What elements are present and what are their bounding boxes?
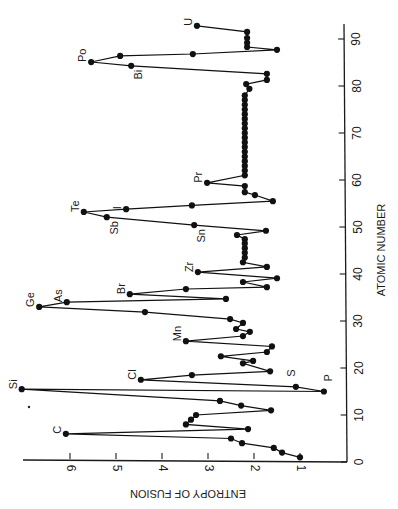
element-label-s: S <box>285 369 297 376</box>
entropy-tick-label: 4 <box>156 465 170 472</box>
element-label-as: As <box>52 289 64 302</box>
data-point <box>223 296 229 302</box>
axes: 123456 0102030405060708090 ENTROPY OF FU… <box>23 24 387 500</box>
atomic-number-tick-label: 40 <box>351 267 365 281</box>
element-label-bi: Bi <box>132 70 144 80</box>
data-point <box>264 264 270 270</box>
entropy-ticks: 123456 <box>64 453 308 472</box>
data-point <box>218 353 224 359</box>
element-label-sb: Sb <box>108 221 120 234</box>
data-point <box>228 435 234 441</box>
data-point <box>244 35 250 41</box>
data-point <box>191 222 197 228</box>
element-label-ge: Ge <box>24 292 36 307</box>
data-point <box>264 349 270 355</box>
atomic-number-tick-label: 80 <box>350 79 364 93</box>
data-point <box>274 275 280 281</box>
data-point <box>250 358 256 364</box>
data-point <box>195 269 201 275</box>
element-label-zr: Zr <box>183 261 195 272</box>
data-point <box>242 189 248 195</box>
entropy-axis-line <box>23 460 347 462</box>
atomic-number-ticks: 0102030405060708090 <box>338 32 366 465</box>
plot-area: CSiPSClMnGeAsBrZrSnSbTeIPrBiPoU <box>7 18 334 461</box>
data-point <box>189 202 195 208</box>
atomic-number-tick-label: 10 <box>352 408 366 422</box>
element-label-po: Po <box>76 49 88 62</box>
entropy-tick-label: 3 <box>202 465 216 472</box>
entropy-axis-label: ENTROPY OF FUSION <box>130 488 246 500</box>
atomic-number-tick-label: 20 <box>352 361 366 375</box>
data-point <box>245 426 251 432</box>
data-point <box>217 398 223 404</box>
atomic-number-axis-label: ATOMIC NUMBER <box>375 204 387 297</box>
data-point <box>189 372 195 378</box>
atomic-number-tick-label: 60 <box>350 173 364 187</box>
data-points <box>19 23 327 461</box>
data-point <box>138 377 144 383</box>
element-label-si: Si <box>7 379 19 389</box>
element-label-c: C <box>51 426 63 434</box>
data-point <box>252 192 258 198</box>
element-label-cl: Cl <box>126 369 138 379</box>
data-point <box>183 421 189 427</box>
element-label-sn: Sn <box>195 229 207 242</box>
entropy-tick-label: 1 <box>294 465 308 472</box>
data-point <box>194 23 200 29</box>
data-point <box>127 291 133 297</box>
data-point <box>321 388 327 394</box>
data-point <box>104 214 110 220</box>
element-labels: CSiPSClMnGeAsBrZrSnSbTeIPrBiPoU <box>7 18 334 434</box>
entropy-of-fusion-chart: 123456 0102030405060708090 ENTROPY OF FU… <box>0 0 398 509</box>
data-point <box>297 454 303 460</box>
data-point <box>19 386 25 392</box>
data-point <box>36 304 42 310</box>
data-point <box>204 180 210 186</box>
data-point <box>142 309 148 315</box>
atomic-number-tick-label: 70 <box>350 126 364 140</box>
data-point <box>128 63 134 69</box>
data-point <box>64 299 70 305</box>
data-point <box>233 326 239 332</box>
atomic-number-tick-label: 30 <box>351 314 365 328</box>
entropy-tick-label: 6 <box>64 465 78 472</box>
element-label-pr: Pr <box>192 171 204 182</box>
data-point <box>269 343 275 349</box>
data-point <box>188 417 194 423</box>
atomic-number-tick-label: 50 <box>351 220 365 234</box>
data-point <box>264 71 270 77</box>
data-point <box>117 53 123 59</box>
atomic-number-axis-line <box>344 24 347 462</box>
data-point <box>240 279 246 285</box>
data-point <box>263 228 269 234</box>
data-point <box>193 412 199 418</box>
entropy-tick-label: 2 <box>248 465 262 472</box>
element-label-te: Te <box>69 200 81 212</box>
data-point <box>274 47 280 53</box>
data-point <box>63 431 69 437</box>
data-point <box>293 384 299 390</box>
data-point <box>238 403 244 409</box>
element-label-i: I <box>111 206 123 209</box>
data-point <box>270 198 276 204</box>
data-point <box>123 206 129 212</box>
data-point <box>183 286 189 292</box>
data-point <box>239 440 245 446</box>
data-point <box>271 445 277 451</box>
element-label-u: U <box>182 18 194 26</box>
element-label-br: Br <box>115 283 127 294</box>
data-point <box>234 232 240 238</box>
data-point <box>242 183 248 189</box>
data-point <box>264 77 270 83</box>
data-point <box>240 333 246 339</box>
data-point <box>247 329 253 335</box>
data-point <box>183 338 189 344</box>
data-point <box>227 316 233 322</box>
element-label-mn: Mn <box>171 326 183 341</box>
data-point <box>242 92 248 98</box>
data-point <box>279 450 285 456</box>
data-point <box>240 360 246 366</box>
data-point <box>242 236 248 242</box>
data-point <box>268 407 274 413</box>
atomic-number-tick-label: 0 <box>352 458 366 465</box>
